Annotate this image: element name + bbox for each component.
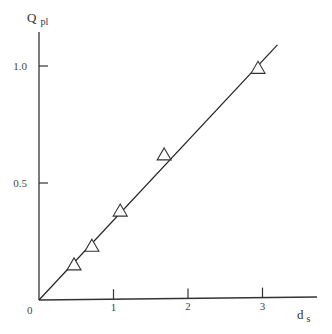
axes: [39, 32, 317, 300]
triangle-marker-icon: [251, 61, 265, 73]
triangle-marker-icon: [157, 148, 171, 160]
chart: 0.51.0 123 0 Qpl ds: [0, 0, 332, 334]
x-ticks: 123: [111, 288, 266, 314]
y-axis-label: Qpl: [27, 10, 48, 27]
y-tick-label: 0.5: [13, 177, 27, 189]
x-axis-label: ds: [297, 307, 311, 324]
triangle-marker-icon: [113, 204, 127, 216]
y-tick-label: 1.0: [13, 60, 27, 72]
origin-label: 0: [27, 304, 33, 316]
x-tick-label: 2: [185, 300, 191, 312]
triangle-marker-icon: [67, 258, 81, 270]
x-tick-label: 1: [111, 301, 117, 313]
x-axis: [39, 297, 317, 300]
x-tick-label: 3: [260, 300, 266, 312]
triangle-marker-icon: [85, 239, 99, 251]
y-ticks: 0.51.0: [13, 60, 48, 189]
